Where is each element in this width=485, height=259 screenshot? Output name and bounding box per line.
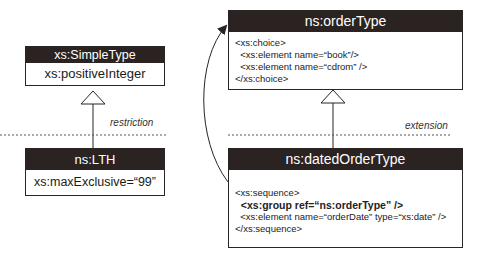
simple-type-box: xs:SimpleType xs:positiveInteger <box>25 46 165 86</box>
simple-type-title: xs:SimpleType <box>26 47 164 63</box>
code-line: <xs:element name=“book”/> <box>235 49 462 61</box>
code-line: <xs:element name=“cdrom” /> <box>235 61 462 73</box>
order-type-title: ns:orderType <box>229 11 462 32</box>
code-line: </xs:choice> <box>235 73 462 85</box>
code-line-bold: <xs:group ref=“ns:orderType” /> <box>235 199 462 211</box>
dated-order-type-title: ns:datedOrderType <box>229 149 462 170</box>
lth-title: ns:LTH <box>26 149 164 170</box>
extension-label: extension <box>405 120 448 131</box>
code-line: <xs:sequence> <box>235 187 462 199</box>
code-line: </xs:sequence> <box>235 223 462 235</box>
code-line: <xs:element name=“orderDate” type=“xs:da… <box>235 211 462 223</box>
lth-body: xs:maxExclusive=“99” <box>26 170 164 195</box>
simple-type-body: xs:positiveInteger <box>26 63 164 85</box>
order-type-code: <xs:choice> <xs:element name=“book”/> <x… <box>229 32 462 85</box>
dated-order-type-code: <xs:sequence> <xs:group ref=“ns:orderTyp… <box>229 170 462 235</box>
group-ref-arrow <box>204 26 228 182</box>
lth-box: ns:LTH xs:maxExclusive=“99” <box>25 148 165 196</box>
restriction-label: restriction <box>110 117 153 128</box>
restriction-inheritance-arrow <box>81 91 105 148</box>
dated-order-type-box: ns:datedOrderType <xs:sequence> <xs:grou… <box>228 148 463 248</box>
order-type-box: ns:orderType <xs:choice> <xs:element nam… <box>228 10 463 90</box>
code-line: <xs:choice> <box>235 37 462 49</box>
extension-inheritance-arrow <box>321 90 345 148</box>
